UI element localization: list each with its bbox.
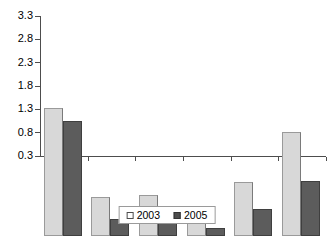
y-tick-mark [35, 62, 40, 63]
bar-chart: 0.30.81.31.82.32.83.3 BahrainKuwaitOmanQ… [0, 0, 334, 236]
legend-entry-2005: 2005 [174, 209, 207, 221]
y-tick-mark [35, 16, 40, 17]
bar-group: Bahrain [40, 96, 88, 236]
bar-uae-2005 [301, 181, 320, 236]
legend-swatch-2003-icon [127, 212, 134, 219]
bar-bahrain-2005 [63, 121, 82, 236]
bar-group-bars [40, 96, 88, 236]
legend-label-2003: 2003 [137, 209, 160, 221]
bar-kuwait-2003 [91, 197, 110, 236]
y-tick-label: 2.8 [18, 32, 33, 45]
bar-group: UAE [278, 96, 326, 236]
bar-uae-2003 [282, 132, 301, 236]
bar-group: Saudi Arabia [231, 96, 279, 236]
y-tick-label: 0.3 [18, 149, 33, 162]
y-tick-label: 1.3 [18, 102, 33, 115]
y-tick-mark [35, 86, 40, 87]
bar-saudi-arabia-2005 [253, 209, 272, 236]
x-tick-mark [326, 157, 327, 161]
y-tick-label: 3.3 [18, 9, 33, 22]
legend-entry-2003: 2003 [127, 209, 160, 221]
legend-swatch-2005-icon [174, 212, 181, 219]
y-tick-label: 0.8 [18, 126, 33, 139]
bar-group-bars [278, 96, 326, 236]
y-tick-mark [35, 39, 40, 40]
bar-group-bars [231, 96, 279, 236]
chart-legend: 2003 2005 [119, 206, 216, 224]
bar-qatar-2005 [206, 228, 225, 236]
y-tick-label: 1.8 [18, 79, 33, 92]
bar-bahrain-2003 [44, 108, 63, 236]
legend-label-2005: 2005 [184, 209, 207, 221]
bar-saudi-arabia-2003 [234, 182, 253, 236]
y-tick-label: 2.3 [18, 56, 33, 69]
